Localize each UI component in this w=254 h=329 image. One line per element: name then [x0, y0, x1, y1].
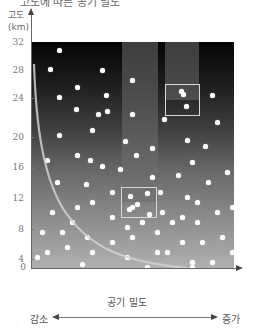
figure-title-fragment: 고도에 따른 공기 밀도 [20, 0, 121, 9]
increase-arrow-icon [211, 314, 218, 320]
density-curve [32, 42, 234, 268]
y-tick-20: 20 [2, 132, 24, 142]
x-axis-arrow-icon [236, 265, 243, 271]
decrease-label: 감소 [30, 311, 48, 326]
x-axis-label: 공기 밀도 [0, 294, 254, 309]
y-tick-12: 12 [2, 193, 24, 203]
y-tick-0: 0 [4, 262, 26, 272]
y-tick-mark [31, 229, 34, 230]
density-direction-line [58, 317, 212, 318]
y-tick-8: 8 [2, 224, 24, 234]
y-axis-label-line2: (km) [8, 21, 29, 33]
y-tick-mark [31, 168, 34, 169]
y-axis-label-line1: 고도 [8, 9, 29, 21]
y-tick-32: 32 [2, 37, 24, 47]
y-axis-arrow-icon [28, 8, 34, 15]
y-axis-label: 고도 (km) [8, 9, 29, 33]
y-tick-16: 16 [2, 162, 24, 172]
y-tick-mark [31, 137, 34, 138]
y-tick-mark [31, 198, 34, 199]
y-axis-line [31, 12, 32, 269]
x-axis-line [31, 268, 237, 269]
y-tick-mark [31, 259, 34, 260]
y-tick-28: 28 [2, 65, 24, 75]
increase-label: 증가 [222, 311, 240, 326]
y-tick-24: 24 [2, 93, 24, 103]
y-tick-mark [31, 98, 34, 99]
